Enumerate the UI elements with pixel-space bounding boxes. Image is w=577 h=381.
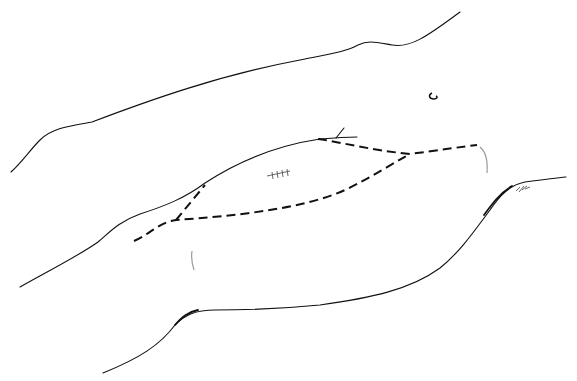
shading-mark-left bbox=[192, 251, 194, 270]
hair-marks bbox=[516, 186, 530, 192]
scar-mark bbox=[267, 169, 290, 179]
surgical-illustration bbox=[0, 0, 577, 381]
middle-body-contour bbox=[20, 137, 357, 287]
umbilicus-mark bbox=[430, 93, 438, 99]
upper-body-contour bbox=[11, 12, 460, 172]
incision-main-curve bbox=[134, 154, 410, 241]
contour-tick bbox=[336, 128, 344, 138]
lower-body-contour bbox=[103, 177, 566, 373]
incision-short-oblique bbox=[176, 185, 205, 220]
shading-mark-right bbox=[480, 147, 487, 173]
incision-upper-branch bbox=[318, 139, 477, 154]
